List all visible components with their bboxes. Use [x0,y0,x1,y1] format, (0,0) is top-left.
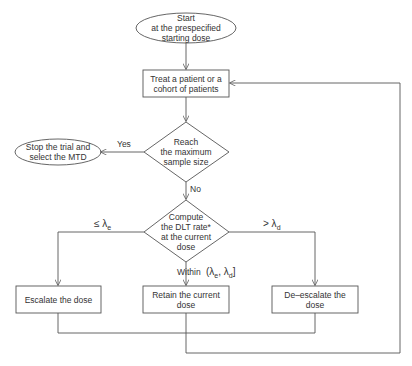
decision2-line-4: dose [177,242,195,252]
treat-line-1: Treat a patient or a [150,74,222,84]
le-lambda-text: ≤ λ [94,218,107,229]
start-line-3: starting dose [162,33,211,43]
treat-line-2: cohort of patients [153,84,218,94]
decision1-line-1: Reach [174,137,199,147]
deescalate-line-1: De–escalate the [284,290,345,300]
treat-node: Treat a patient or a cohort of patients [143,70,229,97]
gt-lambda-text: > λ [263,218,277,229]
stop-line-2: select the MTD [29,152,86,162]
retain-node: Retain the current dose [143,286,229,313]
le-lambda-e-label: ≤ λe [94,218,111,231]
start-node: Start at the prespecified starting dose [136,13,236,43]
start-line-2: at the prespecified [151,23,220,33]
escalate-node: Escalate the dose [16,286,101,313]
decision2-line-3: at the current [161,232,211,242]
decision2-line-2: the DLT rate* [161,222,211,232]
yes-label: Yes [117,139,131,149]
interval-comma: , λ [218,266,229,277]
within-text: Within [177,267,201,277]
decision1-line-3: sample size [164,157,209,167]
deescalate-line-2: dose [306,300,324,310]
no-label: No [190,184,201,194]
sample-size-decision: Reach the maximum sample size [150,136,222,168]
retain-line-1: Retain the current [152,290,220,300]
within-label: Within (λe, λd] [177,266,236,279]
retain-line-2: dose [177,300,195,310]
start-line-1: Start [177,13,195,23]
decision2-line-1: Compute [169,212,204,222]
le-lambda-sub: e [107,224,111,231]
stop-line-1: Stop the trial and [26,142,90,152]
escalate-line-1: Escalate the dose [25,295,93,305]
decision1-line-2: the maximum [160,147,211,157]
stop-node: Stop the trial and select the MTD [15,139,101,165]
gt-lambda-d-label: > λd [263,218,281,231]
gt-lambda-sub: d [277,224,281,231]
interval-close: ] [233,266,236,277]
dlt-decision: Compute the DLT rate* at the current dos… [150,211,222,253]
deescalate-node: De–escalate the dose [272,286,358,313]
